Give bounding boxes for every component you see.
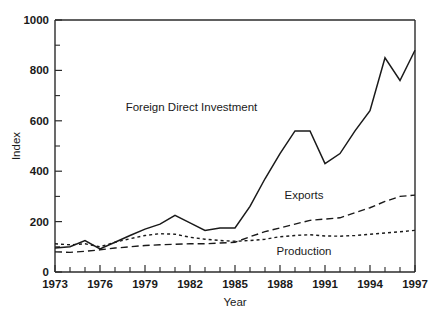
x-tick-label: 1982: [177, 278, 203, 290]
y-tick-label: 0: [43, 266, 49, 278]
x-axis-title: Year: [223, 296, 246, 308]
x-tick-label: 1997: [402, 278, 428, 290]
x-tick-label: 1985: [222, 278, 248, 290]
y-tick-label: 1000: [23, 14, 49, 26]
line-chart-canvas: 02004006008001000 1973197619791982198519…: [0, 0, 438, 320]
y-tick-label: 200: [30, 216, 49, 228]
x-tick-label: 1991: [312, 278, 338, 290]
x-axis-tick-labels: 197319761979198219851988199119941997: [42, 278, 428, 290]
x-tick-label: 1979: [132, 278, 158, 290]
series-label-production: Production: [277, 245, 332, 257]
y-tick-label: 600: [30, 115, 49, 127]
x-tick-label: 1994: [357, 278, 383, 290]
y-tick-label: 800: [30, 64, 49, 76]
series-label-exports: Exports: [285, 189, 324, 201]
x-tick-label: 1976: [87, 278, 113, 290]
chart-figure: 02004006008001000 1973197619791982198519…: [0, 0, 438, 320]
x-tick-label: 1973: [42, 278, 68, 290]
y-tick-label: 400: [30, 165, 49, 177]
x-tick-label: 1988: [267, 278, 293, 290]
series-label-foreign-direct-investment: Foreign Direct Investment: [126, 101, 258, 113]
y-axis-title: Index: [10, 132, 22, 160]
